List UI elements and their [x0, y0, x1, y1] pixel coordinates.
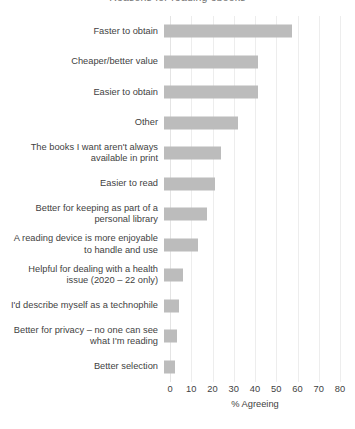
- chart-row: A reading device is more enjoyable to ha…: [0, 230, 355, 261]
- bar: [164, 269, 183, 282]
- bar-cell: [164, 321, 355, 352]
- bar: [164, 177, 215, 190]
- bar-cell: [164, 108, 355, 139]
- bar-cell: [164, 77, 355, 108]
- x-axis: 01020304050607080: [170, 384, 340, 397]
- x-tick-label: 40: [250, 384, 260, 394]
- bar: [164, 147, 221, 160]
- x-tick-label: 70: [314, 384, 324, 394]
- category-label: Better selection: [0, 361, 164, 372]
- bar: [164, 208, 207, 221]
- chart-row: Better for keeping as part of a personal…: [0, 199, 355, 230]
- bar-cell: [164, 260, 355, 291]
- chart-row: The books I want aren't always available…: [0, 138, 355, 169]
- chart-row: I'd describe myself as a technophile: [0, 291, 355, 322]
- bar: [164, 360, 175, 373]
- x-tick-label: 50: [271, 384, 281, 394]
- x-axis-title: % Agreeing: [170, 399, 340, 409]
- bar-chart: Reasons for reading ebooks Faster to obt…: [0, 0, 355, 429]
- chart-title: Reasons for reading ebooks: [0, 0, 355, 5]
- category-label: Faster to obtain: [0, 26, 164, 37]
- category-label: Better for privacy – no one can see what…: [0, 325, 164, 348]
- category-label: The books I want aren't always available…: [0, 142, 164, 165]
- bar: [164, 238, 198, 251]
- bar-cell: [164, 199, 355, 230]
- chart-row: Faster to obtain: [0, 16, 355, 47]
- bar: [164, 25, 292, 38]
- bar: [164, 116, 238, 129]
- bar-cell: [164, 352, 355, 383]
- x-tick-label: 20: [207, 384, 217, 394]
- chart-rows: Faster to obtainCheaper/better valueEasi…: [0, 16, 355, 382]
- category-label: Better for keeping as part of a personal…: [0, 203, 164, 226]
- bar-cell: [164, 291, 355, 322]
- category-label: Easier to read: [0, 178, 164, 189]
- x-tick-label: 0: [167, 384, 172, 394]
- x-tick-label: 80: [335, 384, 345, 394]
- chart-row: Helpful for dealing with a health issue …: [0, 260, 355, 291]
- bar-cell: [164, 230, 355, 261]
- category-label: Helpful for dealing with a health issue …: [0, 264, 164, 287]
- bar-cell: [164, 16, 355, 47]
- chart-row: Better selection: [0, 352, 355, 383]
- chart-row: Easier to read: [0, 169, 355, 200]
- x-tick-label: 30: [229, 384, 239, 394]
- bar: [164, 86, 258, 99]
- chart-row: Cheaper/better value: [0, 47, 355, 78]
- category-label: Other: [0, 117, 164, 128]
- category-label: Easier to obtain: [0, 87, 164, 98]
- chart-row: Other: [0, 108, 355, 139]
- x-tick-label: 10: [186, 384, 196, 394]
- category-label: A reading device is more enjoyable to ha…: [0, 233, 164, 256]
- chart-row: Better for privacy – no one can see what…: [0, 321, 355, 352]
- bar-cell: [164, 138, 355, 169]
- bar-cell: [164, 169, 355, 200]
- category-label: I'd describe myself as a technophile: [0, 300, 164, 311]
- bar: [164, 299, 179, 312]
- bar-cell: [164, 47, 355, 78]
- chart-row: Easier to obtain: [0, 77, 355, 108]
- bar: [164, 55, 258, 68]
- x-tick-label: 60: [292, 384, 302, 394]
- category-label: Cheaper/better value: [0, 56, 164, 67]
- bar: [164, 330, 177, 343]
